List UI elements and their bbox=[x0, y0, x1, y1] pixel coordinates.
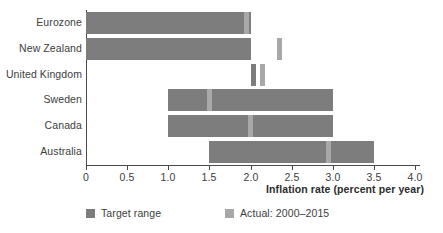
plot-area bbox=[86, 10, 415, 165]
x-axis-tick bbox=[127, 165, 128, 170]
legend-swatch-target-range bbox=[86, 209, 95, 218]
target-range-bar bbox=[251, 64, 256, 86]
x-axis-tick-label: 3.0 bbox=[325, 171, 340, 183]
bar-row bbox=[86, 141, 415, 163]
actual-value-marker bbox=[277, 38, 282, 60]
x-axis-tick-label: 0.5 bbox=[119, 171, 134, 183]
y-axis-label: New Zealand bbox=[0, 42, 82, 54]
bar-row bbox=[86, 64, 415, 86]
x-axis-tick-label: 2.0 bbox=[243, 171, 258, 183]
actual-value-marker bbox=[244, 12, 249, 34]
x-axis-tick-label: 4.0 bbox=[407, 171, 422, 183]
x-axis-tick bbox=[374, 165, 375, 170]
actual-value-marker bbox=[260, 64, 265, 86]
x-axis-line bbox=[86, 165, 420, 166]
y-axis-label: Eurozone bbox=[0, 16, 82, 28]
bar-row bbox=[86, 12, 415, 34]
x-axis-tick-label: 0 bbox=[83, 171, 89, 183]
x-axis-tick bbox=[251, 165, 252, 170]
target-range-bar bbox=[86, 38, 251, 60]
x-axis-tick-label: 2.5 bbox=[284, 171, 299, 183]
legend-label-actual: Actual: 2000–2015 bbox=[240, 207, 329, 219]
x-axis-title: Inflation rate (percent per year) bbox=[0, 183, 424, 195]
legend-item-target-range: Target range bbox=[86, 206, 161, 220]
legend-label-target-range: Target range bbox=[101, 207, 161, 219]
x-axis-tick bbox=[292, 165, 293, 170]
bar-row bbox=[86, 89, 415, 111]
actual-value-marker bbox=[326, 141, 331, 163]
legend-swatch-actual bbox=[225, 209, 234, 218]
bar-row bbox=[86, 115, 415, 137]
y-axis-labels: EurozoneNew ZealandUnited KingdomSwedenC… bbox=[0, 10, 82, 165]
x-axis-tick bbox=[168, 165, 169, 170]
chart-legend: Target range Actual: 2000–2015 bbox=[86, 206, 426, 220]
x-axis-tick bbox=[209, 165, 210, 170]
target-range-bar bbox=[209, 141, 374, 163]
legend-item-actual: Actual: 2000–2015 bbox=[225, 206, 329, 220]
x-axis-tick bbox=[333, 165, 334, 170]
actual-value-marker bbox=[207, 89, 212, 111]
target-range-bar bbox=[86, 12, 251, 34]
x-axis-tick bbox=[415, 165, 416, 170]
y-axis-label: Canada bbox=[0, 119, 82, 131]
x-axis-tick-label: 1.5 bbox=[201, 171, 216, 183]
inflation-target-chart: EurozoneNew ZealandUnited KingdomSwedenC… bbox=[0, 0, 443, 233]
y-axis-label: Sweden bbox=[0, 93, 82, 105]
actual-value-marker bbox=[248, 115, 253, 137]
x-axis-tick-label: 1.0 bbox=[160, 171, 175, 183]
x-axis-tick bbox=[86, 165, 87, 170]
bar-row bbox=[86, 38, 415, 60]
y-axis-label: Australia bbox=[0, 145, 82, 157]
y-axis-label: United Kingdom bbox=[0, 68, 82, 80]
target-range-bar bbox=[168, 89, 333, 111]
x-axis-tick-label: 3.5 bbox=[366, 171, 381, 183]
